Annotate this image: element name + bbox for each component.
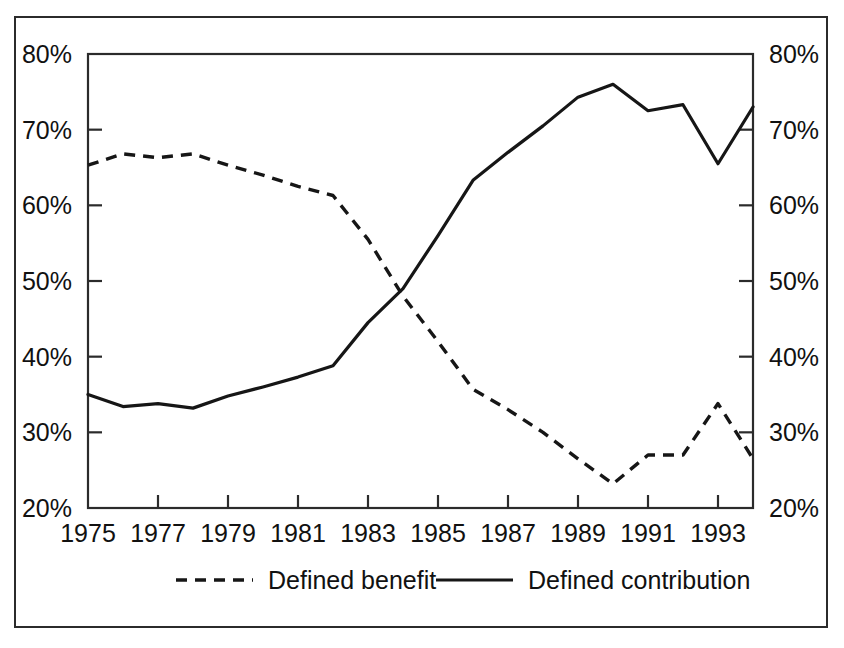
x-tick-label-1987: 1987 [480,519,536,547]
series-layer [88,84,753,484]
x-tick-label-1979: 1979 [200,519,256,547]
y-tick-label-right-70%: 70% [769,116,819,144]
x-tick-label-1991: 1991 [620,519,676,547]
plot-area-border [88,54,753,508]
x-tick-label-1985: 1985 [410,519,466,547]
x-tick-label-1981: 1981 [270,519,326,547]
y-axis-left: 20%30%40%50%60%70%80% [22,40,102,522]
x-tick-label-1983: 1983 [340,519,396,547]
series-line-defined-contribution [88,84,753,408]
line-chart: 20%30%40%50%60%70%80% 20%30%40%50%60%70%… [0,0,844,648]
series-line-defined-benefit [88,154,753,484]
legend-label-defined-benefit: Defined benefit [268,566,436,594]
y-tick-label-right-50%: 50% [769,267,819,295]
y-tick-label-right-80%: 80% [769,40,819,68]
x-tick-label-1989: 1989 [550,519,606,547]
chart-legend: Defined benefit Defined contribution [176,566,750,594]
y-tick-label-left-60%: 60% [22,191,72,219]
x-tick-label-1993: 1993 [690,519,746,547]
y-tick-label-left-20%: 20% [22,494,72,522]
y-tick-label-left-70%: 70% [22,116,72,144]
legend-label-defined-contribution: Defined contribution [528,566,750,594]
figure-container: 20%30%40%50%60%70%80% 20%30%40%50%60%70%… [0,0,844,648]
y-tick-label-left-30%: 30% [22,418,72,446]
y-tick-label-left-50%: 50% [22,267,72,295]
x-tick-label-1975: 1975 [60,519,116,547]
y-tick-label-left-80%: 80% [22,40,72,68]
y-tick-label-right-30%: 30% [769,418,819,446]
y-tick-label-right-40%: 40% [769,343,819,371]
x-axis: 1975197719791981198319851987198919911993 [60,495,746,547]
y-tick-label-right-60%: 60% [769,191,819,219]
x-tick-label-1977: 1977 [130,519,186,547]
y-tick-label-right-20%: 20% [769,494,819,522]
y-tick-label-left-40%: 40% [22,343,72,371]
